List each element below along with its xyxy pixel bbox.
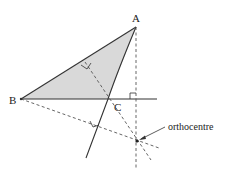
right-angle-marker-bc bbox=[130, 93, 136, 99]
orthocentre-point bbox=[135, 139, 138, 142]
label-orthocentre: orthocentre bbox=[168, 121, 214, 132]
orthocentre-diagram: A B C orthocentre bbox=[0, 0, 238, 178]
label-b: B bbox=[9, 94, 16, 106]
label-a: A bbox=[132, 12, 140, 24]
arrowhead-icon bbox=[139, 136, 146, 141]
point-b bbox=[20, 98, 22, 100]
label-c: C bbox=[114, 101, 121, 113]
